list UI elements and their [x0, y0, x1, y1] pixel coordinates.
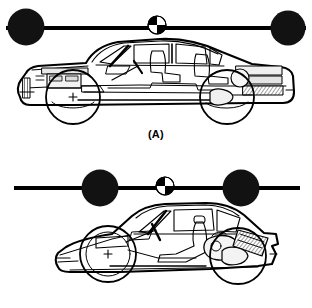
sportscar-floor-pan: [128, 250, 196, 258]
mass-rear: [271, 11, 306, 46]
mass-front: [8, 9, 45, 46]
sedan-rear-seat: [194, 54, 228, 84]
panel-b-drawing: [0, 154, 312, 308]
dumbbell-near-masses: [14, 170, 300, 207]
mass-rear: [223, 170, 260, 207]
sedan-cutaway: [18, 39, 294, 124]
cg-symbol: [148, 16, 166, 34]
mass-front: [82, 170, 119, 207]
sportscar-front-air-dam: [58, 261, 78, 262]
sedan-steering-column: [112, 66, 138, 80]
sedan-floor-pan: [108, 83, 214, 90]
sportscar-rear-brake: [222, 247, 248, 265]
sedan-trunk-area: [231, 66, 283, 95]
sedan-rear-brake: [210, 89, 233, 105]
sedan-transmission: [82, 86, 104, 92]
sedan-rear-window: [176, 44, 207, 64]
figure-panel-b: (B): [0, 154, 312, 308]
sports-car-cutaway: [56, 203, 278, 284]
cg-symbol: [156, 177, 174, 195]
panel-a-caption: (A): [0, 128, 312, 140]
figure-panel-a: (A): [0, 0, 312, 154]
sportscar-seat: [158, 222, 207, 262]
sedan-grille: [23, 78, 30, 98]
